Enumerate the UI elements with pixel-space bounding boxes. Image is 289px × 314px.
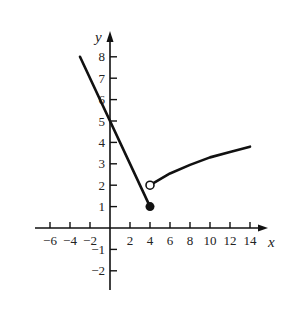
closed-endpoint-icon [146, 202, 155, 211]
open-endpoint-icon [146, 181, 154, 189]
x-axis-label: x [267, 234, 275, 250]
x-tick-label: 2 [127, 233, 134, 248]
x-tick-label: −4 [63, 233, 77, 248]
y-tick-label: 8 [99, 49, 106, 64]
y-tick-label: 3 [99, 156, 106, 171]
chart: x y −6−4−22468101214 −2−112345678 [0, 0, 289, 314]
x-tick-label: 10 [204, 233, 217, 248]
x-tick-label: −6 [43, 233, 57, 248]
y-tick-label: 1 [99, 199, 106, 214]
y-axis-label: y [93, 29, 102, 45]
series-line-0 [80, 57, 150, 207]
y-tick-label: −2 [91, 263, 105, 278]
y-tick-label: −1 [91, 242, 105, 257]
x-tick-label: 4 [147, 233, 154, 248]
y-axis-arrow-icon [107, 31, 114, 42]
plot-area [80, 57, 250, 211]
x-tick-label: 14 [244, 233, 258, 248]
x-tick-label: 6 [167, 233, 174, 248]
y-tick-label: 5 [99, 114, 106, 129]
y-tick-label: 7 [99, 71, 106, 86]
axes: x y [35, 29, 275, 290]
x-ticks: −6−4−22468101214 [43, 222, 257, 248]
y-ticks: −2−112345678 [91, 49, 117, 278]
x-axis-arrow-icon [258, 225, 268, 232]
y-tick-label: 4 [99, 135, 106, 150]
series-line-1 [150, 147, 250, 186]
x-tick-label: 8 [187, 233, 194, 248]
y-tick-label: 2 [99, 178, 106, 193]
x-tick-label: 12 [224, 233, 237, 248]
